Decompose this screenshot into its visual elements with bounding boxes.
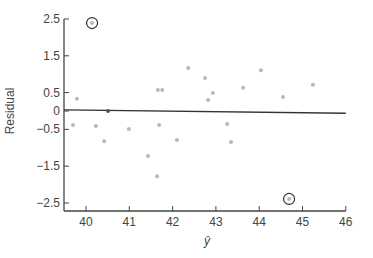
x-tick-label: 43: [209, 215, 223, 229]
data-point: [75, 97, 79, 101]
outlier-point: [287, 197, 291, 201]
y-tick-label: −2.5: [36, 196, 60, 210]
residual-plot: 404142434445462.51.50.50−0.5−1.5−2.5 ŷ R…: [0, 0, 373, 258]
data-point: [156, 88, 160, 92]
data-point: [203, 76, 207, 80]
data-point: [225, 122, 229, 126]
data-point: [241, 86, 245, 90]
data-point: [311, 83, 315, 87]
y-tick-label: 1.5: [43, 49, 60, 63]
data-point: [206, 98, 210, 102]
x-tick-label: 46: [339, 215, 353, 229]
y-tick-label: 0.5: [43, 86, 60, 100]
data-point: [229, 140, 233, 144]
y-tick-label: −0.5: [36, 122, 60, 136]
y-tick-label: 0: [53, 104, 60, 118]
y-tick-label: −1.5: [36, 159, 60, 173]
y-axis-label: Residual: [3, 88, 17, 135]
data-point: [102, 139, 106, 143]
x-tick-label: 41: [123, 215, 137, 229]
outlier-point: [90, 21, 94, 25]
y-tick-label: 2.5: [43, 12, 60, 26]
x-tick-label: 45: [296, 215, 310, 229]
data-points: [71, 66, 315, 178]
data-point: [146, 154, 150, 158]
axes: 404142434445462.51.50.50−0.5−1.5−2.5: [36, 12, 352, 229]
x-tick-label: 44: [253, 215, 267, 229]
data-point: [94, 124, 98, 128]
x-axis-label: ŷ: [203, 234, 211, 248]
data-point: [281, 95, 285, 99]
data-point: [160, 88, 164, 92]
data-point: [186, 66, 190, 70]
data-point: [155, 174, 159, 178]
data-point: [211, 91, 215, 95]
data-point: [259, 68, 263, 72]
data-point: [157, 123, 161, 127]
data-point: [127, 127, 131, 131]
data-point: [175, 138, 179, 142]
data-point: [71, 123, 75, 127]
x-tick-label: 40: [79, 215, 93, 229]
data-point: [106, 109, 110, 113]
x-tick-label: 42: [166, 215, 180, 229]
